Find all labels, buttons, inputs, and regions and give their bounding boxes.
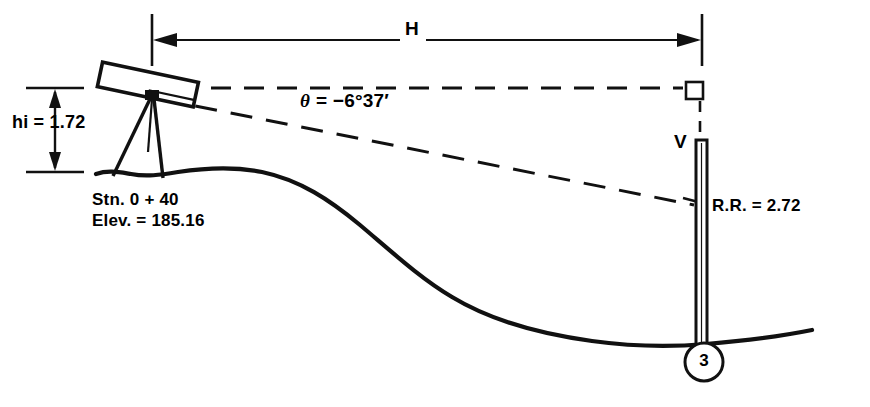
line-of-sight-group xyxy=(160,99,706,205)
tripod-leg-left xyxy=(113,99,150,176)
vertical-angle-value: = −6°37′ xyxy=(316,90,389,111)
level-rod-icon xyxy=(696,140,707,345)
arrow-left-icon xyxy=(153,33,177,47)
instrument-head xyxy=(145,90,159,100)
height-of-instrument-label: hi = 1.72 xyxy=(12,112,85,133)
h-dimension-group xyxy=(152,14,702,66)
arrow-down-icon xyxy=(49,152,61,171)
tripod-leg-right xyxy=(154,99,163,178)
surveying-diagram: H θ= −6°37′ hi = 1.72 Stn. 0 + 40 Elev. … xyxy=(0,0,870,407)
arrow-right-icon xyxy=(677,33,701,47)
arrow-up-icon xyxy=(49,89,61,108)
right-angle-icon xyxy=(686,82,703,99)
line-of-sight-dashed-line xyxy=(160,99,694,205)
tripod-leg-center xyxy=(148,99,152,152)
elevation-label: Elev. = 185.16 xyxy=(92,211,205,231)
rod-reading-label: R.R. = 2.72 xyxy=(712,196,801,216)
horizontal-distance-label: H xyxy=(405,18,419,40)
vertical-distance-label: V xyxy=(674,131,687,153)
theta-symbol: θ xyxy=(300,90,310,111)
vertical-angle-label: θ= −6°37′ xyxy=(300,90,389,112)
point-number-label: 3 xyxy=(692,351,716,371)
station-label: Stn. 0 + 40 xyxy=(92,190,179,210)
